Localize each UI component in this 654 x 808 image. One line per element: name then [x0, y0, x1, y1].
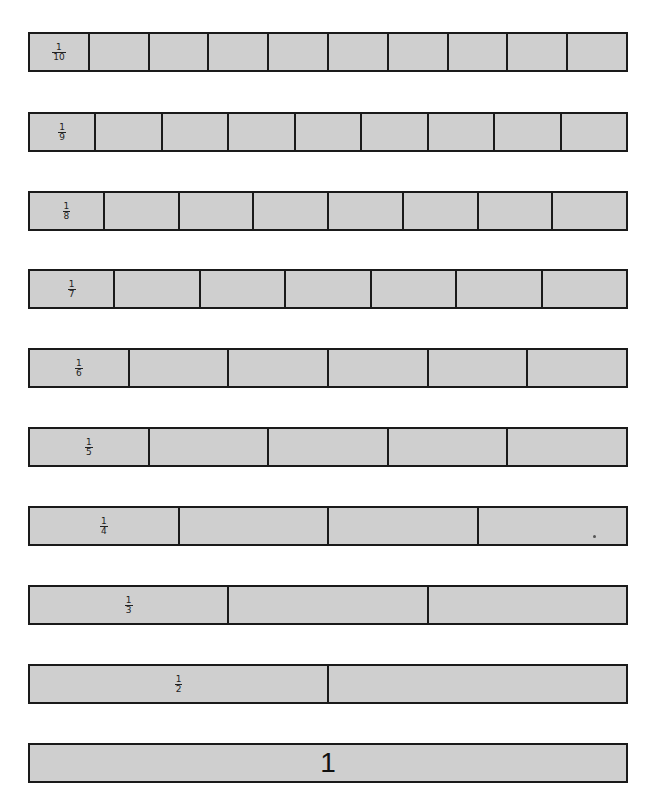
- fraction-numerator: 1: [68, 280, 76, 289]
- fraction-cell: [329, 666, 626, 702]
- fraction-cell: 18: [30, 193, 105, 229]
- fraction-bar-1-8: 18: [28, 191, 628, 231]
- fraction-cell: [568, 34, 626, 70]
- fraction-cell: [229, 587, 428, 623]
- fraction-cell: [90, 34, 150, 70]
- fraction-denominator: 4: [100, 526, 108, 536]
- fraction-cell: [508, 34, 568, 70]
- fraction-cell: [508, 429, 626, 465]
- fraction-cell: [201, 271, 286, 307]
- fraction-cell: [329, 193, 404, 229]
- fraction-cell: [286, 271, 371, 307]
- fraction-cell: [254, 193, 329, 229]
- fraction-cell: [457, 271, 542, 307]
- fraction-bar-1-9: 19: [28, 112, 628, 152]
- fraction-denominator: 2: [175, 684, 183, 694]
- stray-dot: [593, 535, 596, 538]
- fraction-bar-1-7: 17: [28, 269, 628, 309]
- fraction-cell: [372, 271, 457, 307]
- fraction-cell: [553, 193, 626, 229]
- fraction-denominator: 3: [125, 605, 133, 615]
- fraction-denominator: 8: [63, 211, 71, 221]
- fraction-denominator: 7: [68, 289, 76, 299]
- fraction-bar-1-2: 12: [28, 664, 628, 704]
- fraction-cell: [329, 350, 429, 386]
- whole-bar: 1: [28, 743, 628, 783]
- fraction-bar-1-6: 16: [28, 348, 628, 388]
- fraction-denominator: 10: [52, 52, 65, 62]
- fraction-cell: 110: [30, 34, 90, 70]
- fraction-cell: [209, 34, 269, 70]
- fraction-label: 15: [85, 438, 93, 457]
- fraction-numerator: 1: [125, 596, 133, 605]
- fraction-cell: [130, 350, 230, 386]
- fraction-cell: [150, 34, 210, 70]
- fraction-cell: 15: [30, 429, 150, 465]
- fraction-denominator: 5: [85, 447, 93, 457]
- fraction-numerator: 1: [63, 202, 71, 211]
- fraction-cell: [389, 429, 509, 465]
- fraction-cell: 19: [30, 114, 96, 150]
- whole-cell: 1: [30, 745, 626, 781]
- fraction-cell: [180, 508, 330, 544]
- fraction-cell: [329, 34, 389, 70]
- fraction-label: 19: [58, 123, 66, 142]
- fraction-cell: [115, 271, 200, 307]
- fraction-numerator: 1: [175, 675, 183, 684]
- fraction-label: 14: [100, 517, 108, 536]
- fraction-bar-1-10: 110: [28, 32, 628, 72]
- fraction-cell: 17: [30, 271, 115, 307]
- fraction-cell: [163, 114, 229, 150]
- fraction-cell: [229, 114, 295, 150]
- fraction-cell: [528, 350, 626, 386]
- fraction-numerator: 1: [58, 123, 66, 132]
- fraction-cell: [269, 429, 389, 465]
- fraction-cell: [479, 508, 627, 544]
- fraction-bar-1-3: 13: [28, 585, 628, 625]
- fraction-bar-1-4: 14: [28, 506, 628, 546]
- fraction-denominator: 9: [58, 132, 66, 142]
- fraction-cell: [229, 350, 329, 386]
- fraction-cell: [362, 114, 428, 150]
- fraction-cell: [404, 193, 479, 229]
- fraction-cell: [429, 114, 495, 150]
- fraction-denominator: 6: [75, 368, 83, 378]
- fraction-cell: [562, 114, 626, 150]
- fraction-numerator: 1: [75, 359, 83, 368]
- fraction-numerator: 1: [55, 43, 63, 52]
- fraction-cell: [329, 508, 479, 544]
- fraction-label: 16: [75, 359, 83, 378]
- fraction-label: 18: [63, 202, 71, 221]
- fraction-label: 13: [125, 596, 133, 615]
- fraction-cell: [105, 193, 180, 229]
- fraction-label: 110: [52, 43, 65, 62]
- fraction-cell: [269, 34, 329, 70]
- fraction-cell: [495, 114, 561, 150]
- fraction-bar-1-5: 15: [28, 427, 628, 467]
- fraction-cell: [180, 193, 255, 229]
- fraction-cell: [296, 114, 362, 150]
- fraction-cell: 12: [30, 666, 329, 702]
- fraction-numerator: 1: [85, 438, 93, 447]
- fraction-numerator: 1: [100, 517, 108, 526]
- fraction-cell: [449, 34, 509, 70]
- fraction-cell: [429, 350, 529, 386]
- fraction-cell: [150, 429, 270, 465]
- fraction-cell: [96, 114, 162, 150]
- fraction-cell: 16: [30, 350, 130, 386]
- fraction-cell: 13: [30, 587, 229, 623]
- fraction-cell: [479, 193, 554, 229]
- fraction-cell: [389, 34, 449, 70]
- whole-label: 1: [320, 747, 336, 779]
- fraction-label: 17: [68, 280, 76, 299]
- fraction-cell: 14: [30, 508, 180, 544]
- fraction-cell: [543, 271, 626, 307]
- fraction-label: 12: [175, 675, 183, 694]
- fraction-cell: [429, 587, 626, 623]
